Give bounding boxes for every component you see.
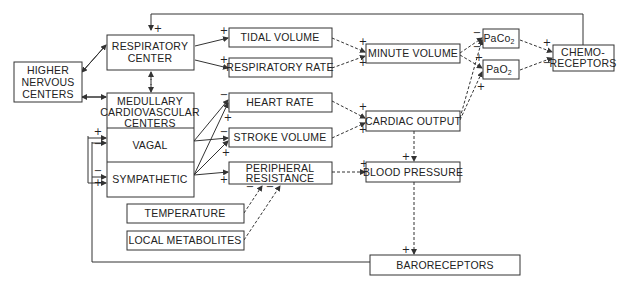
svg-text:MINUTE VOLUME: MINUTE VOLUME bbox=[368, 47, 458, 59]
node-heart-rate: HEART RATE bbox=[229, 93, 332, 112]
node-paco2: PaCo2 bbox=[483, 29, 519, 48]
svg-text:HIGHER: HIGHER bbox=[27, 64, 69, 76]
svg-text:+: + bbox=[402, 151, 410, 162]
svg-text:+: + bbox=[94, 177, 102, 188]
svg-text:RESPIRATORY: RESPIRATORY bbox=[112, 40, 188, 52]
node-blood-pressure: BLOOD PRESSURE bbox=[363, 162, 463, 182]
node-stroke-volume: STROKE VOLUME bbox=[229, 128, 332, 147]
svg-text:−: − bbox=[473, 41, 481, 52]
physiology-control-diagram: + − − + + + + − + − + + − − + + + + + + … bbox=[0, 0, 624, 284]
svg-text:+: + bbox=[154, 23, 162, 34]
svg-text:+: + bbox=[359, 101, 367, 112]
node-higher-nervous-centers: HIGHER NERVOUS CENTERS bbox=[14, 62, 82, 102]
svg-text:−: − bbox=[473, 27, 481, 38]
svg-text:+: + bbox=[543, 37, 551, 48]
svg-text:NERVOUS: NERVOUS bbox=[21, 76, 74, 88]
node-baroreceptors: BARORECEPTORS bbox=[370, 255, 520, 275]
node-tidal-volume: TIDAL VOLUME bbox=[229, 28, 332, 47]
svg-text:RESISTANCE: RESISTANCE bbox=[246, 172, 314, 184]
svg-text:+: + bbox=[224, 112, 232, 123]
svg-text:+: + bbox=[94, 126, 102, 137]
svg-text:−: − bbox=[94, 138, 102, 149]
svg-text:RECEPTORS: RECEPTORS bbox=[550, 57, 617, 69]
node-peripheral-resistance: PERIPHERAL RESISTANCE bbox=[229, 162, 332, 184]
node-respiratory-center: RESPIRATORY CENTER bbox=[107, 35, 194, 70]
svg-text:BLOOD PRESSURE: BLOOD PRESSURE bbox=[363, 166, 463, 178]
node-respiratory-rate: RESPIRATORY RATE bbox=[226, 58, 333, 77]
node-local-metabolites: LOCAL METABOLITES bbox=[127, 231, 244, 250]
svg-text:CENTER: CENTER bbox=[128, 52, 173, 64]
svg-text:STROKE VOLUME: STROKE VOLUME bbox=[233, 131, 326, 143]
svg-text:BARORECEPTORS: BARORECEPTORS bbox=[396, 259, 494, 271]
svg-text:PaCo2: PaCo2 bbox=[483, 32, 514, 45]
svg-text:+: + bbox=[220, 174, 228, 185]
node-temperature: TEMPERATURE bbox=[127, 204, 244, 223]
svg-text:TIDAL VOLUME: TIDAL VOLUME bbox=[240, 31, 319, 43]
node-minute-volume: MINUTE VOLUME bbox=[366, 44, 460, 63]
svg-text:CENTERS: CENTERS bbox=[124, 117, 176, 129]
svg-text:+: + bbox=[222, 147, 230, 158]
svg-text:CENTERS: CENTERS bbox=[22, 88, 74, 100]
svg-text:+: + bbox=[402, 244, 410, 255]
node-vagal: VAGAL bbox=[132, 139, 167, 151]
node-chemoreceptors: CHEMO- RECEPTORS bbox=[550, 45, 617, 71]
svg-text:+: + bbox=[220, 25, 228, 36]
svg-text:HEART RATE: HEART RATE bbox=[246, 96, 313, 108]
svg-text:LOCAL METABOLITES: LOCAL METABOLITES bbox=[128, 234, 241, 246]
svg-text:−: − bbox=[94, 165, 102, 176]
svg-text:RESPIRATORY RATE: RESPIRATORY RATE bbox=[226, 61, 333, 73]
node-cardiac-output: CARDIAC OUTPUT bbox=[365, 111, 462, 131]
node-pao2: PaO2 bbox=[483, 60, 519, 79]
svg-text:+: + bbox=[475, 52, 483, 63]
svg-text:−: − bbox=[220, 89, 228, 100]
node-sympathetic: SYMPATHETIC bbox=[112, 173, 188, 185]
svg-text:TEMPERATURE: TEMPERATURE bbox=[145, 207, 226, 219]
svg-text:+: + bbox=[477, 81, 485, 92]
svg-text:CARDIAC OUTPUT: CARDIAC OUTPUT bbox=[365, 115, 462, 127]
svg-text:−: − bbox=[220, 126, 228, 137]
